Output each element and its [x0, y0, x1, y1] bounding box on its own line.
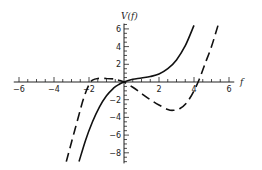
x-tick-label: 6: [226, 85, 231, 94]
series-solid-line: [79, 25, 194, 161]
y-tick-label: −4: [109, 113, 121, 122]
x-tick-label: −4: [48, 85, 60, 94]
y-tick-label: 4: [116, 43, 121, 52]
x-axis-title: f: [239, 77, 245, 87]
y-tick-label: 2: [116, 60, 121, 69]
y-tick-label: −2: [109, 96, 121, 105]
chart: −6−4−2246642−2−4−6−8 V(f) f: [0, 0, 262, 170]
x-tick-label: 2: [156, 85, 161, 94]
y-axis-title: V(f): [121, 11, 138, 21]
x-tick-label: −6: [13, 85, 25, 94]
axes: [14, 24, 235, 164]
y-tick-label: −8: [109, 149, 121, 158]
y-tick-label: 6: [116, 25, 121, 34]
y-tick-label: −6: [109, 131, 121, 140]
tick-labels: −6−4−2246642−2−4−6−8: [13, 25, 231, 158]
